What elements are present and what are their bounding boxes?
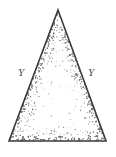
triangle-diagram: Y Y [0,0,116,157]
figure-background [0,0,116,157]
figure-canvas: Y Y [0,0,116,157]
